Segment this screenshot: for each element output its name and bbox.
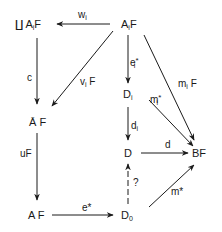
label-d: d bbox=[165, 139, 171, 151]
label-ei-star: e*i bbox=[130, 55, 135, 72]
node-AbarF: Ā F bbox=[29, 116, 46, 128]
label-viF: vi F bbox=[80, 76, 95, 91]
label-miF: mi F bbox=[178, 78, 197, 93]
node-AF: A F bbox=[28, 209, 45, 221]
label-uF: uF bbox=[20, 148, 32, 160]
label-m-star: m* bbox=[171, 186, 183, 198]
label-mi-star: m*i bbox=[150, 92, 158, 109]
label-c: c bbox=[27, 72, 32, 84]
node-coprod-AiF: ∐ AiF bbox=[15, 18, 41, 34]
commutative-diagram: ∐ AiF AiF Ā F A F Di D BF D0 wi c vi F u… bbox=[0, 0, 222, 232]
node-D: D bbox=[124, 147, 132, 159]
label-e-star: e* bbox=[82, 202, 91, 214]
node-Di: Di bbox=[123, 88, 133, 104]
node-AiF: AiF bbox=[121, 18, 137, 34]
label-wi: wi bbox=[78, 9, 87, 24]
label-question: ? bbox=[133, 177, 139, 189]
arrow-viF bbox=[52, 31, 113, 106]
node-BF: BF bbox=[192, 147, 206, 159]
node-D0: D0 bbox=[121, 209, 133, 225]
label-di: di bbox=[131, 120, 138, 135]
